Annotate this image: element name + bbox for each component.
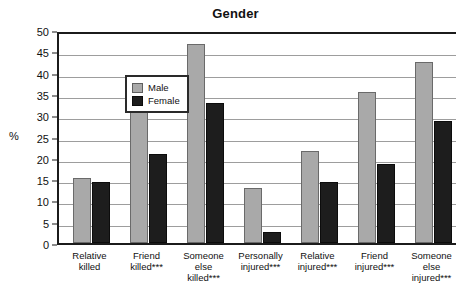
bar-female <box>320 182 338 243</box>
bar-male <box>130 112 148 243</box>
bar-group <box>244 34 281 243</box>
x-axis-category-label: Someoneelseinjured*** <box>400 250 464 283</box>
x-axis-labels: RelativekilledFriendkilled***Someoneelse… <box>57 250 456 300</box>
legend-label: Female <box>148 95 180 106</box>
x-axis-category-label: Personallyinjured*** <box>229 250 293 272</box>
bar-female <box>263 232 281 243</box>
plot-area: MaleFemale <box>57 32 456 245</box>
bar-female <box>377 164 395 243</box>
x-axis-category-label: Friendkilled*** <box>115 250 179 272</box>
bar-group <box>187 34 224 243</box>
legend-label: Male <box>148 82 169 93</box>
bar-group <box>358 34 395 243</box>
y-tick-label: 10 <box>37 196 49 208</box>
bar-female <box>434 121 452 243</box>
y-tick-label: 5 <box>43 218 49 230</box>
y-tick-label: 45 <box>37 47 49 59</box>
legend-swatch-male <box>132 83 143 93</box>
bar-male <box>301 151 319 243</box>
y-axis-ticks: 05101520253035404550 <box>0 32 57 245</box>
y-tick-label: 20 <box>37 154 49 166</box>
bar-group <box>73 34 110 243</box>
y-tick-label: 40 <box>37 69 49 81</box>
chart-legend: MaleFemale <box>125 75 189 113</box>
bar-female <box>206 103 224 243</box>
legend-item: Male <box>132 81 180 94</box>
bar-group <box>301 34 338 243</box>
bars-layer <box>59 34 456 243</box>
legend-item: Female <box>132 94 180 107</box>
legend-swatch-female <box>132 96 143 106</box>
y-tick-label: 50 <box>37 26 49 38</box>
y-tick-label: 35 <box>37 90 49 102</box>
bar-male <box>187 44 205 243</box>
bar-group <box>415 34 452 243</box>
y-tick-label: 0 <box>43 239 49 251</box>
bar-chart: Gender % 05101520253035404550 MaleFemale… <box>0 0 471 302</box>
bar-male <box>415 62 433 243</box>
bar-male <box>244 188 262 243</box>
bar-male <box>73 178 91 243</box>
x-axis-category-label: Someoneelsekilled*** <box>172 250 236 283</box>
bar-female <box>149 154 167 243</box>
bar-female <box>92 182 110 243</box>
y-tick-label: 30 <box>37 111 49 123</box>
y-tick-label: 25 <box>37 133 49 145</box>
chart-title: Gender <box>0 6 471 21</box>
x-axis-category-label: Relativeinjured*** <box>286 250 350 272</box>
bar-group <box>130 34 167 243</box>
x-axis-category-label: Relativekilled <box>58 250 122 272</box>
y-tick-label: 15 <box>37 175 49 187</box>
bar-male <box>358 92 376 243</box>
x-axis-category-label: Friendinjured*** <box>343 250 407 272</box>
